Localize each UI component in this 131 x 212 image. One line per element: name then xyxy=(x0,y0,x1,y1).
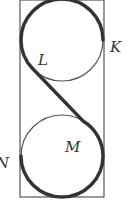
label-l: L xyxy=(37,51,48,69)
diagram-canvas: K L M N xyxy=(0,0,131,212)
thick-path xyxy=(21,0,103,197)
label-k: K xyxy=(109,38,122,56)
label-m: M xyxy=(64,138,81,156)
label-n: N xyxy=(0,154,10,172)
